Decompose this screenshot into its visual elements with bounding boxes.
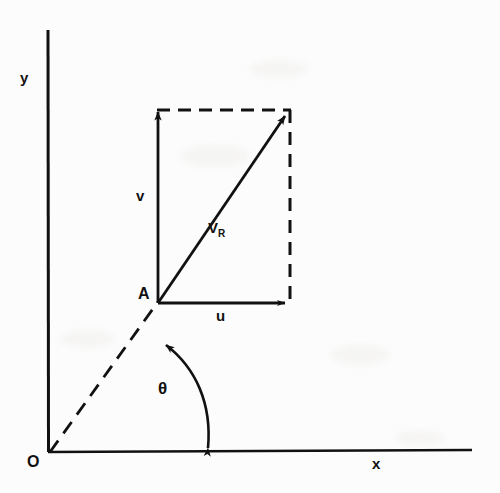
theta-angle-label: θ — [158, 380, 167, 397]
angle-arc — [166, 345, 209, 448]
y-axis — [48, 30, 49, 452]
vector-resultant-subscript: R — [218, 228, 225, 239]
x-axis-label: x — [372, 456, 380, 471]
vector-resultant-symbol: V — [208, 219, 218, 236]
vector-diagram-figure: y x O A v u VR θ — [0, 0, 500, 493]
x-axis — [48, 450, 472, 452]
vector-resultant-label: VR — [208, 220, 225, 239]
origin-point-label: O — [27, 454, 39, 470]
vector-u-label: u — [216, 308, 225, 323]
vector-resultant-arrow — [158, 116, 285, 303]
vector-diagram-canvas — [0, 0, 500, 493]
vector-v-label: v — [136, 188, 144, 203]
dashed-radius-line — [50, 299, 160, 452]
point-a-label: A — [138, 286, 150, 302]
y-axis-label: y — [20, 70, 28, 85]
